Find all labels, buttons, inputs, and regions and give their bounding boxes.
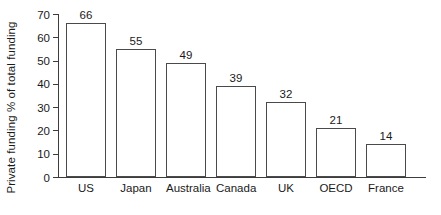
bar-chart: Private funding % of total funding 01020… (0, 0, 441, 215)
x-axis-tick-label: OECD (316, 182, 356, 194)
y-axis-tick-label: 20 (37, 125, 50, 137)
y-axis-tick-label: 70 (37, 9, 50, 21)
y-axis-tick-label: 50 (37, 55, 50, 67)
y-axis-tick-label: 10 (37, 148, 50, 160)
y-axis-line (58, 14, 59, 178)
y-axis-tick-label: 60 (37, 32, 50, 44)
bar-value-label: 49 (180, 49, 193, 61)
x-axis-line (58, 177, 426, 178)
y-axis-tick-label: 30 (37, 102, 50, 114)
bar: 55 (116, 49, 156, 177)
y-axis-tick: 70 (53, 14, 58, 15)
x-axis-tick-label: UK (266, 182, 306, 194)
y-axis-tick-label: 0 (44, 172, 50, 184)
bar: 66 (66, 23, 106, 177)
y-axis-tick: 40 (53, 84, 58, 85)
y-axis-tick: 0 (53, 177, 58, 178)
x-axis-tick-label: Japan (116, 182, 156, 194)
x-axis-tick-label: Canada (216, 182, 256, 194)
plot-area: 010203040506070 66554939322114 USJapanAu… (58, 0, 441, 215)
bar-value-label: 55 (130, 35, 143, 47)
bar: 39 (216, 86, 256, 177)
y-axis-tick: 50 (53, 61, 58, 62)
x-axis-tick-label: France (366, 182, 406, 194)
y-axis-title: Private funding % of total funding (0, 0, 22, 215)
y-axis-tick: 20 (53, 130, 58, 131)
bar-value-label: 39 (230, 72, 243, 84)
bar-value-label: 66 (80, 9, 93, 21)
y-axis-tick: 10 (53, 154, 58, 155)
x-axis-tick-label: US (66, 182, 106, 194)
y-axis-tick: 60 (53, 37, 58, 38)
bar: 49 (166, 63, 206, 177)
bar-value-label: 21 (330, 114, 343, 126)
y-axis-tick-label: 40 (37, 78, 50, 90)
bar: 32 (266, 102, 306, 177)
x-axis-tick-label: Australia (166, 182, 206, 194)
bar-value-label: 32 (280, 88, 293, 100)
y-axis-tick: 30 (53, 107, 58, 108)
bar: 14 (366, 144, 406, 177)
bar-value-label: 14 (380, 130, 393, 142)
bar: 21 (316, 128, 356, 177)
